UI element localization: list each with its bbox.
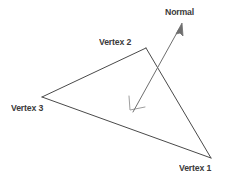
label-normal: Normal bbox=[165, 7, 194, 17]
edge-vertex2-vertex1 bbox=[146, 48, 211, 158]
edge-vertex1-vertex3 bbox=[42, 97, 211, 158]
triangle-outline bbox=[42, 48, 211, 158]
label-vertex-3: Vertex 3 bbox=[11, 103, 43, 113]
arrowhead-icon bbox=[176, 23, 183, 36]
edge-vertex3-vertex2 bbox=[42, 48, 146, 97]
right-angle-icon bbox=[129, 96, 145, 110]
diagram-canvas bbox=[0, 0, 230, 181]
label-vertex-2: Vertex 2 bbox=[99, 37, 131, 47]
label-vertex-1: Vertex 1 bbox=[179, 163, 211, 173]
normal-vector-diagram: Normal Vertex 2 Vertex 3 Vertex 1 bbox=[0, 0, 230, 181]
normal-vector-shaft bbox=[133, 29, 179, 112]
